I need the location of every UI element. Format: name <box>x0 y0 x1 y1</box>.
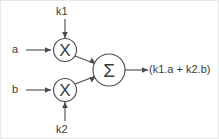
multiply-glyph: X <box>59 81 70 100</box>
arrowhead-b-icon <box>45 87 51 93</box>
input-label-a: a <box>12 43 18 55</box>
output-label: (k1.a + k2.b) <box>149 63 210 75</box>
multiply-glyph: X <box>59 41 70 60</box>
arrowhead-k2-icon <box>62 102 68 108</box>
arrowhead-k1-icon <box>62 32 68 38</box>
arrowhead-a-icon <box>45 47 51 53</box>
input-label-k1: k1 <box>56 5 68 17</box>
arrowhead-output-icon <box>142 67 148 73</box>
input-label-b: b <box>12 83 18 95</box>
diagram-canvas: X X Σ a b k1 k2 (k1.a + k2.b) <box>0 0 219 139</box>
input-label-k2: k2 <box>56 123 68 135</box>
sigma-glyph: Σ <box>103 60 115 81</box>
multiplier-top-block: X <box>54 39 77 62</box>
summing-junction-block: Σ <box>93 54 125 86</box>
multiplier-bottom-block: X <box>54 79 77 102</box>
